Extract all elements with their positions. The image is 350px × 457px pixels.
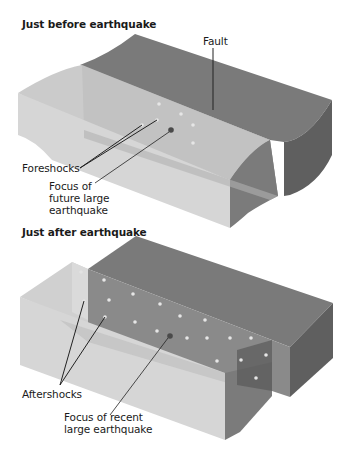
after-panel-title: Just after earthquake [22, 226, 147, 238]
future-focus-point [168, 127, 174, 133]
aftershock-dot [155, 329, 159, 333]
aftershock-dot [203, 318, 207, 322]
foreshock-dot [191, 141, 195, 145]
aftershock-dot [133, 320, 137, 324]
foreshock-dot [191, 123, 195, 127]
aftershock-dot [185, 336, 189, 340]
aftershock-dot [102, 278, 106, 282]
aftershock-dot [107, 298, 111, 302]
aftershock-dot [131, 292, 135, 296]
aftershock-dot [178, 314, 182, 318]
foreshock-dot [157, 102, 161, 106]
recent-focus-point [167, 333, 173, 339]
recent-focus-label: Focus of recent large earthquake [64, 411, 152, 435]
aftershock-dot [254, 376, 258, 380]
aftershocks-label: Aftershocks [22, 388, 82, 400]
foreshocks-label: Foreshocks [22, 162, 80, 174]
after-block [20, 236, 333, 440]
aftershock-dot [215, 359, 219, 363]
aftershock-dot [264, 353, 268, 357]
foreshock-dot [179, 112, 183, 116]
aftershock-dot [239, 358, 243, 362]
fault-label: Fault [203, 35, 228, 47]
aftershock-dot [79, 270, 83, 274]
aftershock-dot [158, 302, 162, 306]
aftershock-dot [249, 336, 253, 340]
aftershock-dot [205, 336, 209, 340]
before-panel-title: Just before earthquake [22, 18, 156, 30]
earthquake-fault-diagram: Just before earthquake Fault Foreshocks … [0, 0, 350, 457]
aftershock-dot [228, 336, 232, 340]
future-focus-label: Focus of future large earthquake [49, 180, 109, 216]
